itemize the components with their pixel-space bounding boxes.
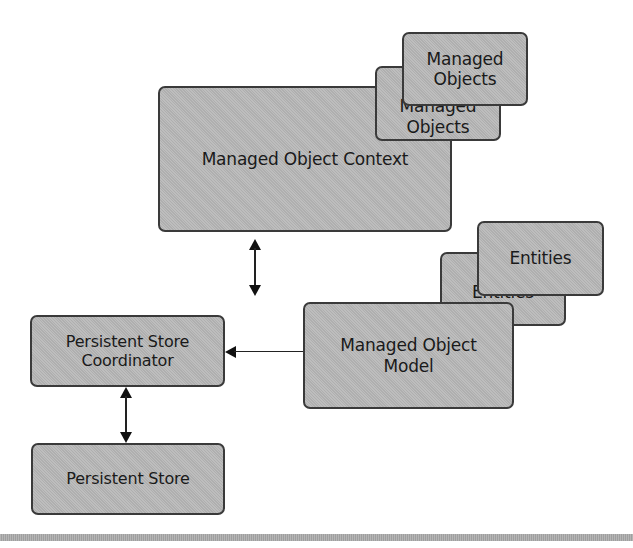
model-line1: Managed Object: [340, 335, 476, 355]
arrowhead-left-icon: [225, 346, 236, 358]
arrowhead-down-icon: [249, 285, 261, 296]
model-line2: Model: [340, 356, 476, 376]
coordinator-line2: Coordinator: [66, 351, 189, 370]
managed-objects-front-line2: Objects: [427, 69, 504, 89]
persistent-store-box: Persistent Store: [31, 443, 225, 515]
bottom-divider: [0, 534, 633, 541]
entities-front-box: Entities: [477, 221, 604, 296]
entities-front-label: Entities: [509, 248, 571, 268]
managed-objects-front-line1: Managed: [427, 49, 504, 69]
managed-objects-back-line2: Objects: [400, 117, 477, 137]
coordinator-store-connector: [125, 396, 127, 436]
persistent-store-coordinator-box: Persistent Store Coordinator: [30, 315, 225, 387]
persistent-store-label: Persistent Store: [66, 469, 189, 488]
model-coordinator-connector: [234, 351, 304, 352]
managed-objects-front-box: Managed Objects: [402, 32, 528, 106]
arrowhead-down-icon: [120, 432, 132, 443]
managed-object-model-box: Managed Object Model: [303, 302, 514, 409]
coordinator-line1: Persistent Store: [66, 332, 189, 351]
managed-object-context-label: Managed Object Context: [202, 149, 409, 169]
context-coordinator-connector: [254, 248, 256, 288]
